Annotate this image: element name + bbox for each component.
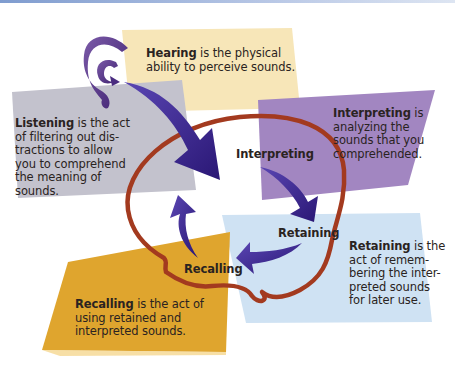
retaining-term: Retaining: [349, 239, 411, 253]
listening-definition: Listening is the act of filtering out di…: [15, 117, 135, 198]
interpreting-term: Interpreting: [333, 106, 411, 120]
hearing-term: Hearing: [146, 46, 197, 60]
hearing-definition: Hearing is the physical ability to perce…: [146, 47, 296, 74]
cycle-label-recalling: Recalling: [184, 262, 243, 276]
cycle-label-retaining: Retaining: [278, 226, 340, 240]
retaining-definition: Retaining is the act of remem- bering th…: [349, 240, 449, 308]
recalling-term: Recalling: [75, 297, 134, 311]
recalling-definition: Recalling is the act of using retained a…: [75, 298, 225, 339]
interpreting-definition: Interpreting is analyzing the sounds tha…: [333, 107, 443, 161]
cycle-label-interpreting: Interpreting: [236, 147, 314, 161]
listening-term: Listening: [15, 116, 74, 130]
